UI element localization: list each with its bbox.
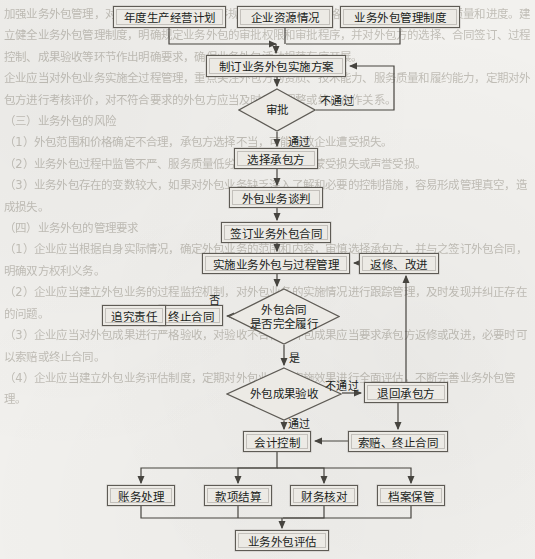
node-archive-keeping[interactable]: 档案保管 bbox=[377, 485, 445, 506]
node-label: 选择承包方 bbox=[247, 151, 305, 167]
node-rework-improve[interactable]: 返修、改进 bbox=[359, 253, 439, 274]
node-label: 实施业务外包与过程管理 bbox=[213, 256, 340, 272]
edge-label-approval-passed: 通过 bbox=[288, 133, 311, 149]
node-label: 业务外包评估 bbox=[248, 533, 317, 549]
node-label: 财务核对 bbox=[301, 488, 347, 504]
edge-n16-n19 bbox=[238, 468, 277, 483]
node-payment-settlement[interactable]: 款项结算 bbox=[204, 485, 272, 506]
node-draft-plan[interactable]: 制订业务外包实施方案 bbox=[206, 55, 346, 77]
node-label: 外包成果验收 bbox=[250, 387, 318, 401]
node-enterprise-resources[interactable]: 企业资源情况 bbox=[237, 6, 333, 28]
node-label: 返修、改进 bbox=[370, 256, 428, 272]
node-label: 会计控制 bbox=[254, 434, 300, 450]
edge-n16-n21 bbox=[277, 468, 411, 483]
edge-label-approval-rejected: 不通过 bbox=[320, 92, 354, 108]
node-terminate-contract[interactable]: 终止合同 bbox=[159, 305, 223, 326]
node-label: 外包合同 是否完全履行 bbox=[250, 303, 318, 331]
node-label: 追究责任 bbox=[111, 308, 157, 324]
node-accounting-control[interactable]: 会计控制 bbox=[243, 431, 311, 452]
edge-n21-n22 bbox=[283, 506, 411, 518]
node-outsourcing-evaluation[interactable]: 业务外包评估 bbox=[235, 530, 329, 551]
edge-label-acceptance-passed: 通过 bbox=[288, 415, 311, 431]
edge-n3-n4 bbox=[286, 28, 400, 44]
node-sign-contract[interactable]: 签订业务外包合同 bbox=[221, 222, 331, 243]
flowchart-page: 加强业务外包管理，对各项外包业务进行统筹规划，合理安排，严格管理，以保证外包业务… bbox=[0, 0, 535, 559]
node-label: 年度生产经营计划 bbox=[124, 9, 216, 25]
node-label: 档案保管 bbox=[388, 488, 434, 504]
node-financial-reconciliation[interactable]: 财务核对 bbox=[290, 485, 358, 506]
node-annual-plan[interactable]: 年度生产经营计划 bbox=[113, 6, 226, 28]
node-acceptance-decision[interactable]: 外包成果验收 bbox=[226, 367, 342, 421]
node-select-contractor[interactable]: 选择承包方 bbox=[234, 148, 318, 169]
node-label: 制订业务外包实施方案 bbox=[219, 58, 334, 74]
edge-label-acceptance-rejected: 不通过 bbox=[325, 377, 359, 393]
node-label: 款项结算 bbox=[215, 488, 261, 504]
node-return-to-contractor[interactable]: 退回承包方 bbox=[364, 382, 448, 403]
edge-label-contract-no: 否 bbox=[209, 291, 220, 307]
node-bookkeeping[interactable]: 账务处理 bbox=[107, 485, 175, 506]
node-label: 终止合同 bbox=[168, 308, 214, 324]
node-label: 退回承包方 bbox=[377, 385, 435, 401]
node-claim-terminate[interactable]: 索赔、终止合同 bbox=[348, 431, 448, 452]
node-pursue-liability[interactable]: 追究责任 bbox=[102, 305, 166, 326]
edge-n20-n22 bbox=[282, 506, 324, 518]
node-label: 企业资源情况 bbox=[251, 9, 320, 25]
edge-n1-n4 bbox=[169, 28, 276, 44]
node-label: 业务外包管理制度 bbox=[354, 9, 446, 25]
edge-label-contract-yes: 是 bbox=[289, 349, 300, 365]
node-label: 索赔、终止合同 bbox=[358, 434, 439, 450]
node-contract-fulfilled-decision[interactable]: 外包合同 是否完全履行 bbox=[228, 288, 340, 345]
edge-n16-n20 bbox=[277, 468, 324, 483]
flow-connectors bbox=[0, 0, 535, 559]
node-approval-decision[interactable]: 审批 bbox=[238, 88, 316, 132]
node-negotiation[interactable]: 外包业务谈判 bbox=[229, 187, 323, 208]
node-label: 审批 bbox=[266, 103, 289, 117]
node-implement-and-manage[interactable]: 实施业务外包与过程管理 bbox=[202, 253, 350, 274]
node-label: 签订业务外包合同 bbox=[230, 225, 322, 241]
node-label: 外包业务谈判 bbox=[242, 190, 311, 206]
node-outsourcing-policy[interactable]: 业务外包管理制度 bbox=[340, 6, 460, 28]
node-label: 账务处理 bbox=[118, 488, 164, 504]
edge-n18-n22 bbox=[141, 506, 282, 518]
